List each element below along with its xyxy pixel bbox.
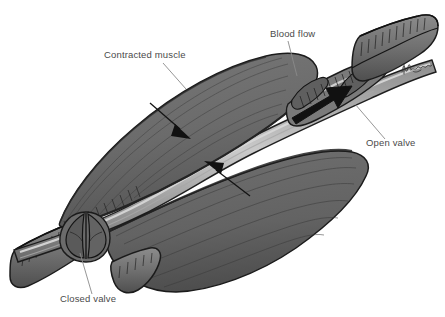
label-blood-flow: Blood flow — [270, 28, 315, 39]
label-contracted-muscle: Contracted muscle — [104, 49, 186, 60]
closed-valve-cusps — [60, 212, 110, 262]
muscle-pump-illustration: Contracted muscle Blood flow Open valve … — [0, 0, 445, 317]
label-open-valve: Open valve — [366, 137, 416, 148]
label-closed-valve: Closed valve — [60, 293, 116, 304]
